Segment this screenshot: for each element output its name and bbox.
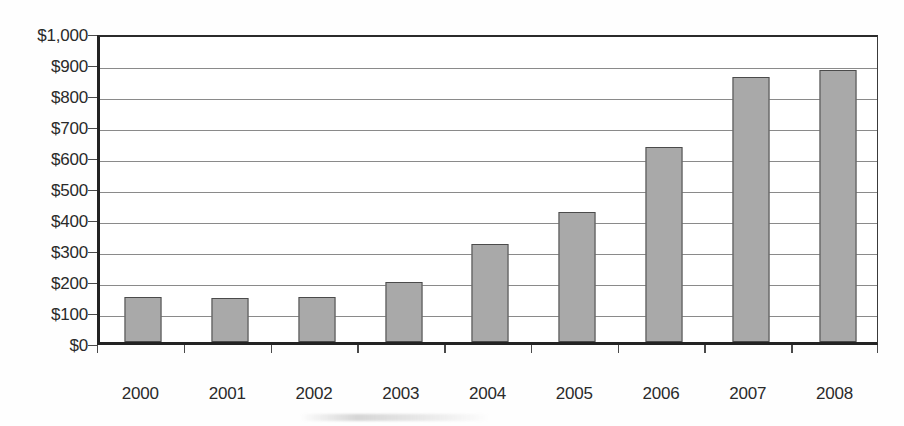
x-tick-label: 2003	[357, 384, 444, 404]
y-tick-mark	[88, 159, 97, 160]
y-tick-mark	[88, 66, 97, 67]
bar-chart: $0$100$200$300$400$500$600$700$800$900$1…	[0, 0, 904, 426]
y-tick-mark	[88, 314, 97, 315]
x-tick-mark	[271, 345, 272, 353]
bar	[298, 297, 335, 342]
y-tick-mark	[88, 221, 97, 222]
bar-slot	[621, 37, 708, 342]
bar-slot	[360, 37, 447, 342]
y-tick-mark	[88, 97, 97, 98]
x-tick-mark	[97, 345, 98, 353]
x-tick-mark	[618, 345, 619, 353]
y-tick-mark	[88, 283, 97, 284]
bar-slot	[100, 37, 187, 342]
y-tick-label: $500	[0, 182, 88, 199]
x-tick-mark	[184, 345, 185, 353]
x-tick-mark	[791, 345, 792, 353]
bar	[212, 298, 249, 342]
bar-slot	[707, 37, 794, 342]
x-tick-label: 2005	[531, 384, 618, 404]
x-tick-label: 2002	[271, 384, 358, 404]
bar	[646, 147, 683, 342]
y-axis-ticks	[88, 35, 97, 347]
y-tick-label: $400	[0, 213, 88, 230]
y-tick-label: $800	[0, 89, 88, 106]
y-tick-mark	[88, 345, 97, 346]
bar	[559, 212, 596, 342]
x-tick-mark	[444, 345, 445, 353]
y-tick-label: $600	[0, 151, 88, 168]
bar-slot	[534, 37, 621, 342]
x-tick-label: 2008	[791, 384, 878, 404]
bar-slot	[274, 37, 361, 342]
y-tick-mark	[88, 128, 97, 129]
bar	[125, 297, 162, 342]
y-tick-label: $700	[0, 120, 88, 137]
x-tick-label: 2007	[704, 384, 791, 404]
y-tick-label: $0	[0, 337, 88, 354]
x-tick-label: 2006	[618, 384, 705, 404]
y-tick-label: $900	[0, 58, 88, 75]
y-tick-label: $1,000	[0, 27, 88, 44]
y-axis: $0$100$200$300$400$500$600$700$800$900$1…	[0, 35, 88, 345]
bar	[385, 282, 422, 342]
bar-slot	[794, 37, 881, 342]
scan-artifact	[300, 414, 490, 421]
plot-area	[97, 35, 878, 345]
bar-slot	[447, 37, 534, 342]
bar	[472, 244, 509, 342]
x-tick-label: 2000	[97, 384, 184, 404]
y-tick-mark	[88, 190, 97, 191]
y-tick-mark	[88, 252, 97, 253]
y-tick-label: $300	[0, 244, 88, 261]
x-tick-mark	[357, 345, 358, 353]
bar	[819, 70, 856, 342]
bar-slot	[187, 37, 274, 342]
y-tick-label: $200	[0, 275, 88, 292]
x-tick-label: 2001	[184, 384, 271, 404]
x-tick-mark	[877, 345, 878, 353]
bar	[732, 77, 769, 342]
x-tick-mark	[531, 345, 532, 353]
x-axis: 200020012002200320042005200620072008	[97, 384, 878, 408]
y-tick-label: $100	[0, 306, 88, 323]
x-tick-label: 2004	[444, 384, 531, 404]
x-axis-ticks	[97, 345, 878, 353]
y-tick-mark	[88, 35, 97, 36]
x-tick-mark	[704, 345, 705, 353]
bar-series	[100, 37, 877, 342]
